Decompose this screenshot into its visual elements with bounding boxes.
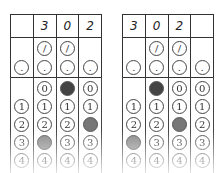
digit-bubble-1[interactable]: 1 <box>37 99 52 114</box>
decimal-bubble[interactable]: . <box>149 60 164 75</box>
digit-bubble-1[interactable]: 1 <box>172 99 187 114</box>
digit-bubble-0[interactable]: 0 <box>195 81 210 96</box>
digit-bubble-3[interactable]: 3 <box>149 135 164 150</box>
symbol-column: / . <box>169 37 192 77</box>
digit-bubble-0[interactable]: 0 <box>83 81 98 96</box>
digit-bubble-3[interactable]: 3 <box>172 135 187 150</box>
symbol-row: . / . / . . <box>10 37 102 78</box>
answer-cell: 3 <box>123 15 146 37</box>
decimal-bubble[interactable]: . <box>37 60 52 75</box>
decimal-bubble[interactable]: . <box>83 60 98 75</box>
answer-cell <box>191 15 213 37</box>
answer-cell: 0 <box>57 15 80 37</box>
digit-bubble-4[interactable]: 4 <box>60 153 75 168</box>
digit-bubble-0[interactable]: 0 <box>172 81 187 96</box>
digit-bubble-1[interactable]: 1 <box>195 99 210 114</box>
fraction-slash-bubble[interactable]: / <box>60 41 75 56</box>
decimal-bubble[interactable]: . <box>172 60 187 75</box>
digit-bubble-4[interactable]: 4 <box>83 153 98 168</box>
answer-cell <box>11 15 34 37</box>
fraction-slash-bubble[interactable]: / <box>37 41 52 56</box>
symbol-column: . <box>123 37 146 77</box>
digit-bubble-2[interactable]: 2 <box>149 117 164 132</box>
symbol-column: . <box>191 37 213 77</box>
digit-column: 0 1 2 3 4 <box>168 77 191 173</box>
answer-cell: 0 <box>146 15 169 37</box>
answer-cell: 2 <box>169 15 192 37</box>
digit-bubble-3[interactable]: 3 <box>83 135 98 150</box>
fraction-slash-bubble[interactable]: / <box>149 41 164 56</box>
symbol-row: . / . / . . <box>122 37 214 78</box>
digit-bubble-2[interactable]: 2 <box>37 117 52 132</box>
symbol-column: . <box>11 37 34 77</box>
digit-bubble-0-filled[interactable]: 0 <box>149 81 164 96</box>
digit-bubble-2[interactable]: 2 <box>126 117 141 132</box>
answer-grid-right: 3 0 2 . / . / . . 1 2 3 4 0 1 2 3 <box>122 14 215 173</box>
answer-cell: 3 <box>34 15 57 37</box>
digit-bubble-4[interactable]: 4 <box>37 153 52 168</box>
digit-column: 1 2 3 4 <box>10 77 33 173</box>
digit-bubble-2-filled[interactable]: 2 <box>172 117 187 132</box>
digit-bubble-area: 1 2 3 4 0 1 2 3 4 0 1 2 3 4 0 1 2 3 4 <box>122 77 214 173</box>
digit-bubble-1[interactable]: 1 <box>83 99 98 114</box>
decimal-bubble[interactable]: . <box>14 60 29 75</box>
digit-bubble-1[interactable]: 1 <box>126 99 141 114</box>
digit-bubble-0-filled[interactable]: 0 <box>60 81 75 96</box>
digit-bubble-3[interactable]: 3 <box>14 135 29 150</box>
symbol-column: / . <box>57 37 80 77</box>
digit-column: 0 1 2 3 4 <box>190 77 214 173</box>
decimal-bubble[interactable]: . <box>195 60 210 75</box>
digit-bubble-area: 1 2 3 4 0 1 2 3 4 0 1 2 3 4 0 1 2 3 4 <box>10 77 102 173</box>
answer-header-row: 3 0 2 <box>10 14 102 38</box>
digit-bubble-2-filled[interactable]: 2 <box>83 117 98 132</box>
digit-bubble-3[interactable]: 3 <box>195 135 210 150</box>
digit-bubble-4[interactable]: 4 <box>172 153 187 168</box>
digit-column: 1 2 3 4 <box>122 77 145 173</box>
digit-column: 0 1 2 3 4 <box>145 77 168 173</box>
decimal-bubble[interactable]: . <box>126 60 141 75</box>
decimal-bubble[interactable]: . <box>60 60 75 75</box>
digit-bubble-4[interactable]: 4 <box>126 153 141 168</box>
digit-column: 0 1 2 3 4 <box>56 77 79 173</box>
digit-bubble-4[interactable]: 4 <box>149 153 164 168</box>
digit-bubble-1[interactable]: 1 <box>60 99 75 114</box>
digit-bubble-0[interactable]: 0 <box>37 81 52 96</box>
fraction-slash-bubble[interactable]: / <box>172 41 187 56</box>
digit-bubble-3-filled[interactable]: 3 <box>37 135 52 150</box>
digit-bubble-2[interactable]: 2 <box>195 117 210 132</box>
answer-cell: 2 <box>79 15 101 37</box>
digit-bubble-1[interactable]: 1 <box>14 99 29 114</box>
digit-bubble-3-filled[interactable]: 3 <box>126 135 141 150</box>
digit-bubble-3[interactable]: 3 <box>60 135 75 150</box>
symbol-column: / . <box>146 37 169 77</box>
digit-bubble-2[interactable]: 2 <box>14 117 29 132</box>
answer-header-row: 3 0 2 <box>122 14 214 38</box>
symbol-column: . <box>79 37 101 77</box>
digit-bubble-1[interactable]: 1 <box>149 99 164 114</box>
digit-bubble-2[interactable]: 2 <box>60 117 75 132</box>
digit-column: 0 1 2 3 4 <box>78 77 102 173</box>
digit-bubble-4[interactable]: 4 <box>195 153 210 168</box>
digit-bubble-4[interactable]: 4 <box>14 153 29 168</box>
symbol-column: / . <box>34 37 57 77</box>
digit-column: 0 1 2 3 4 <box>33 77 56 173</box>
answer-grid-left: 3 0 2 . / . / . . 1 2 3 4 0 1 2 3 4 <box>10 14 103 173</box>
